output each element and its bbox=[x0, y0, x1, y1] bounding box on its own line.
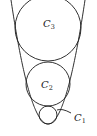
label-c3: C3 bbox=[43, 18, 55, 31]
circle-c1 bbox=[39, 106, 57, 124]
label-c3-subscript: 3 bbox=[51, 23, 55, 31]
label-c2-subscript: 2 bbox=[49, 84, 53, 92]
circle-c3 bbox=[15, 0, 81, 61]
label-c2: C2 bbox=[41, 79, 53, 92]
parabola-circles-diagram: C3 C2 C1 bbox=[0, 0, 97, 136]
label-c1-subscript: 1 bbox=[82, 117, 86, 125]
label-c1: C1 bbox=[74, 112, 86, 125]
